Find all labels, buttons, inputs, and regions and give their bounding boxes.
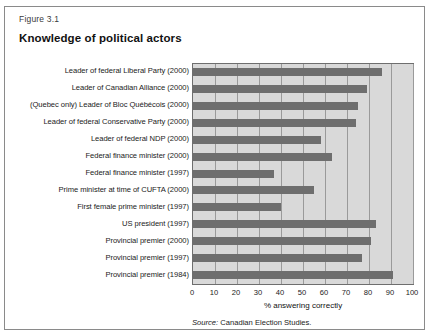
bar bbox=[193, 186, 314, 194]
x-tick-label: 90 bbox=[386, 288, 394, 297]
bar-row bbox=[193, 267, 413, 284]
x-tick-label: 70 bbox=[342, 288, 350, 297]
x-tick-label: 100 bbox=[406, 288, 419, 297]
bar bbox=[193, 220, 376, 228]
x-tick-label: 30 bbox=[254, 288, 262, 297]
category-label: (Quebec only) Leader of Bloc Québécois (… bbox=[3, 100, 189, 109]
bar-row bbox=[193, 250, 413, 267]
bar-row bbox=[193, 182, 413, 199]
bar-row bbox=[193, 132, 413, 149]
category-label: Provincial premier (1997) bbox=[3, 253, 189, 262]
category-label: Leader of Canadian Alliance (2000) bbox=[3, 83, 189, 92]
x-tick-label: 80 bbox=[364, 288, 372, 297]
bar-row bbox=[193, 199, 413, 216]
category-label: Provincial premier (1984) bbox=[3, 270, 189, 279]
x-axis-title: % answering correctly bbox=[192, 301, 414, 310]
category-label: US president (1997) bbox=[3, 219, 189, 228]
category-label: First female prime minister (1997) bbox=[3, 202, 189, 211]
bar bbox=[193, 119, 356, 127]
bar-row bbox=[193, 216, 413, 233]
category-label: Leader of federal Liberal Party (2000) bbox=[3, 66, 189, 75]
bar bbox=[193, 254, 362, 262]
bar bbox=[193, 68, 382, 76]
category-label: Leader of federal Conservative Party (20… bbox=[3, 117, 189, 126]
plot-area bbox=[192, 63, 414, 285]
source-text: Canadian Election Studies. bbox=[220, 318, 311, 327]
bar-row bbox=[193, 64, 413, 81]
bar-row bbox=[193, 166, 413, 183]
bar bbox=[193, 102, 358, 110]
gridline bbox=[413, 64, 414, 284]
x-tick-label: 0 bbox=[190, 288, 194, 297]
bar-chart: Leader of federal Liberal Party (2000)Le… bbox=[0, 0, 430, 336]
x-tick-label: 10 bbox=[210, 288, 218, 297]
bar bbox=[193, 203, 281, 211]
bar-row bbox=[193, 98, 413, 115]
bar bbox=[193, 271, 393, 279]
bar bbox=[193, 85, 367, 93]
category-label: Federal finance minister (2000) bbox=[3, 151, 189, 160]
x-tick-label: 20 bbox=[232, 288, 240, 297]
x-tick-label: 40 bbox=[276, 288, 284, 297]
category-axis-labels: Leader of federal Liberal Party (2000)Le… bbox=[0, 63, 189, 285]
bar bbox=[193, 237, 371, 245]
category-label: Provincial premier (2000) bbox=[3, 236, 189, 245]
source-note: Source: Canadian Election Studies. bbox=[192, 318, 311, 327]
bar-row bbox=[193, 233, 413, 250]
bar-row bbox=[193, 81, 413, 98]
x-axis-tick-labels: 0102030405060708090100 bbox=[192, 288, 414, 300]
bar bbox=[193, 153, 332, 161]
category-label: Federal finance minister (1997) bbox=[3, 168, 189, 177]
bar bbox=[193, 170, 274, 178]
x-tick-label: 60 bbox=[320, 288, 328, 297]
category-label: Leader of federal NDP (2000) bbox=[3, 134, 189, 143]
source-prefix: Source: bbox=[192, 318, 218, 327]
x-tick-label: 50 bbox=[298, 288, 306, 297]
category-label: Prime minister at time of CUFTA (2000) bbox=[3, 185, 189, 194]
bar bbox=[193, 136, 321, 144]
bar-row bbox=[193, 149, 413, 166]
bar-row bbox=[193, 115, 413, 132]
